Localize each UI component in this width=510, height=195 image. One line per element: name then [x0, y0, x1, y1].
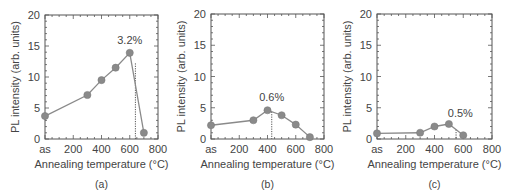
y-axis-label: PL intensity (arb. units) [341, 20, 353, 132]
y-axis-label: PL intensity (arb. units) [175, 20, 187, 132]
y-tick-label: 5 [366, 102, 372, 114]
x-tick-label: 800 [149, 143, 167, 155]
data-point [417, 129, 424, 136]
plot-frame [377, 14, 492, 139]
y-tick-label: 15 [194, 39, 206, 51]
y-tick-label: 20 [194, 8, 206, 20]
x-tick-label: 200 [230, 143, 248, 155]
data-point [207, 122, 214, 129]
x-tick-label: 200 [397, 143, 415, 155]
data-point [98, 77, 105, 84]
data-line [45, 53, 144, 133]
x-tick-label: as [39, 143, 51, 155]
x-tick-label: 400 [258, 143, 276, 155]
panel-caption: (c) [428, 178, 440, 190]
x-tick-label: 400 [425, 143, 443, 155]
y-tick-label: 15 [28, 40, 40, 52]
panel-caption: (b) [261, 178, 274, 190]
x-axis-label: Annealing temperature (°C) [367, 158, 501, 170]
chart-panel-b: 05101520as200400600800Annealing temperat… [175, 8, 335, 190]
y-tick-label: 15 [360, 39, 372, 51]
data-point [250, 117, 257, 124]
data-point [41, 112, 48, 119]
y-tick-label: 5 [200, 102, 206, 114]
chart-svg: 05101520as200400600800Annealing temperat… [0, 0, 510, 195]
y-tick-label: 10 [194, 71, 206, 83]
x-tick-label: as [205, 143, 217, 155]
x-tick-label: 600 [454, 143, 472, 155]
annotation-label: 3.2% [117, 34, 142, 46]
x-axis-label: Annealing temperature (°C) [200, 158, 334, 170]
y-axis-label: PL intensity (arb. units) [9, 21, 21, 133]
data-point [112, 64, 119, 71]
data-point [460, 132, 467, 139]
data-point [306, 134, 313, 141]
y-tick-label: 10 [360, 71, 372, 83]
x-axis-label: Annealing temperature (°C) [34, 158, 168, 170]
data-point [292, 121, 299, 128]
x-tick-label: 600 [121, 143, 139, 155]
x-tick-label: 800 [315, 143, 333, 155]
data-point [140, 129, 147, 136]
x-tick-label: as [371, 143, 383, 155]
chart-panel-c: 05101520as200400600800Annealing temperat… [341, 8, 502, 190]
data-point [373, 130, 380, 137]
y-tick-label: 10 [28, 71, 40, 83]
plot-frame [211, 14, 324, 139]
x-tick-label: 800 [483, 143, 501, 155]
annotation-label: 0.5% [448, 107, 473, 119]
data-point [264, 107, 271, 114]
y-tick-label: 20 [28, 9, 40, 21]
y-tick-label: 20 [360, 8, 372, 20]
data-point [84, 91, 91, 98]
data-point [278, 112, 285, 119]
data-point [431, 123, 438, 130]
chart-panel-a: 05101520as200400600800Annealing temperat… [9, 9, 169, 190]
y-tick-label: 5 [34, 102, 40, 114]
x-tick-label: 600 [287, 143, 305, 155]
x-tick-label: 200 [64, 143, 82, 155]
data-point [445, 120, 452, 127]
panel-caption: (a) [95, 178, 108, 190]
data-point [126, 49, 133, 56]
annotation-label: 0.6% [259, 91, 284, 103]
x-tick-label: 400 [92, 143, 110, 155]
